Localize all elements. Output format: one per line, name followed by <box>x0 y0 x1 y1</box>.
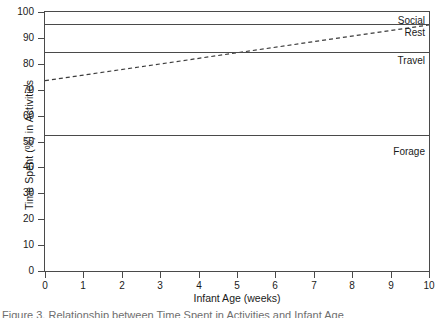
y-axis-tick-label: 50 <box>0 137 34 147</box>
x-axis-tick-label: 6 <box>260 280 290 291</box>
x-axis-tick <box>352 272 353 278</box>
trend-line-svg <box>45 12 429 271</box>
x-axis-tick <box>237 272 238 278</box>
band-boundary-line <box>45 24 429 25</box>
plot-area <box>44 11 430 272</box>
x-axis-tick-label: 5 <box>222 280 252 291</box>
x-axis-title: Infant Age (weeks) <box>44 292 430 304</box>
y-axis-tick <box>38 219 44 220</box>
y-axis-tick-label: 70 <box>0 85 34 95</box>
y-axis-tick-label: 40 <box>0 162 34 172</box>
y-axis-tick <box>38 245 44 246</box>
x-axis-tick-label: 3 <box>145 280 175 291</box>
x-axis-tick <box>199 272 200 278</box>
y-axis-tick-label: 10 <box>0 240 34 250</box>
y-axis-tick <box>38 142 44 143</box>
y-axis-tick <box>38 271 44 272</box>
x-axis-tick <box>391 272 392 278</box>
x-axis-tick-label: 1 <box>68 280 98 291</box>
y-axis-tick <box>38 64 44 65</box>
x-axis-tick-label: 4 <box>184 280 214 291</box>
y-axis-tick <box>38 116 44 117</box>
band-boundary-line <box>45 52 429 53</box>
x-axis-tick-label: 7 <box>299 280 329 291</box>
figure-container: Time Spent (%) in Activities 01020304050… <box>0 0 444 318</box>
y-axis-tick <box>38 90 44 91</box>
band-label-forage: Forage <box>393 146 425 157</box>
y-axis-tick <box>38 38 44 39</box>
x-axis-tick-label: 0 <box>30 280 60 291</box>
x-axis-tick <box>314 272 315 278</box>
y-axis-tick-label: 20 <box>0 214 34 224</box>
x-axis-tick-label: 2 <box>107 280 137 291</box>
y-axis-tick <box>38 193 44 194</box>
series-layer <box>45 12 429 271</box>
band-label-travel: Travel <box>398 55 425 66</box>
y-axis-tick <box>38 167 44 168</box>
x-axis-tick <box>160 272 161 278</box>
band-label-rest: Rest <box>404 27 425 38</box>
y-axis-tick-label: 90 <box>0 33 34 43</box>
x-axis-tick-label: 10 <box>414 280 444 291</box>
figure-caption: Figure 3. Relationship between Time Spen… <box>2 309 442 318</box>
y-axis-tick-label: 0 <box>0 266 34 276</box>
x-axis-tick <box>275 272 276 278</box>
band-boundary-line <box>45 135 429 136</box>
x-axis-tick-label: 8 <box>337 280 367 291</box>
x-axis-tick <box>45 272 46 278</box>
x-axis-tick <box>83 272 84 278</box>
x-axis-tick-label: 9 <box>376 280 406 291</box>
y-axis-tick-label: 80 <box>0 59 34 69</box>
x-axis-tick <box>122 272 123 278</box>
band-label-social: Social <box>398 15 425 26</box>
y-axis-tick-label: 60 <box>0 111 34 121</box>
x-axis-tick <box>429 272 430 278</box>
y-axis-tick-label: 100 <box>0 7 34 17</box>
y-axis-tick <box>38 12 44 13</box>
y-axis-tick-label: 30 <box>0 188 34 198</box>
